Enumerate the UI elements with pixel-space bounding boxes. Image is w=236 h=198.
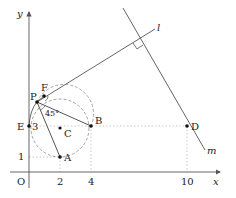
x-tick-2: 2 [57, 176, 63, 187]
origin-label: O [17, 176, 25, 187]
x-axis-label: x [213, 176, 219, 187]
dashed-circles [31, 84, 94, 157]
y-tick-1: 1 [18, 151, 24, 162]
label-line-l: l [157, 22, 160, 33]
line-l [37, 29, 155, 102]
point-d [185, 124, 189, 128]
point-e [27, 124, 31, 128]
angle-label: 45° [45, 109, 59, 118]
guide-lines [29, 126, 187, 172]
label-a: A [63, 152, 72, 163]
label-line-m: m [207, 145, 216, 156]
label-c: C [64, 128, 72, 139]
label-b: B [95, 115, 102, 126]
label-e: E [17, 121, 24, 132]
point-f [42, 94, 46, 98]
geometry-diagram: y x O 2 4 10 1 3 A B C D E F P l m 45° [0, 0, 236, 198]
label-f: F [41, 82, 48, 93]
label-p: P [30, 91, 37, 102]
right-angle-marker [133, 43, 143, 49]
y-axis-label: y [16, 8, 23, 19]
x-tick-10: 10 [181, 176, 194, 187]
point-c [58, 126, 61, 129]
points [27, 94, 189, 159]
label-d: D [191, 121, 199, 132]
point-a [58, 155, 62, 159]
point-b [89, 124, 93, 128]
x-tick-4: 4 [88, 176, 94, 187]
y-tick-3: 3 [32, 121, 38, 132]
